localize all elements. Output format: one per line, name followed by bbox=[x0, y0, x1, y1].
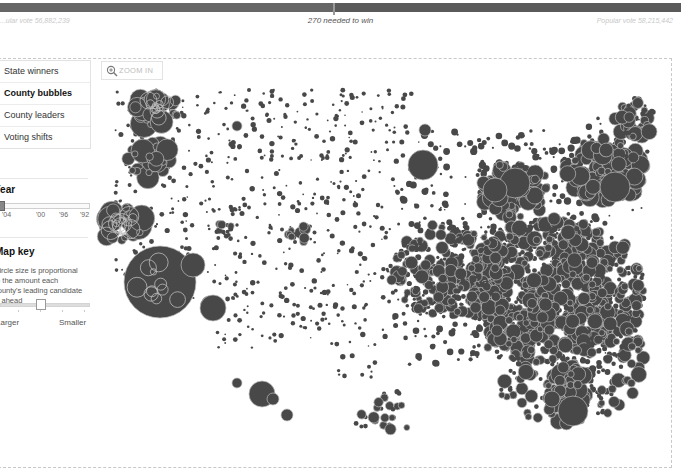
county-bubble[interactable] bbox=[227, 233, 231, 237]
county-bubble[interactable] bbox=[349, 341, 352, 344]
county-bubble[interactable] bbox=[560, 166, 576, 182]
county-bubble[interactable] bbox=[297, 111, 299, 113]
county-bubble[interactable] bbox=[520, 250, 525, 255]
county-bubble[interactable] bbox=[491, 264, 499, 272]
county-bubble[interactable] bbox=[414, 275, 418, 279]
county-bubble[interactable] bbox=[284, 262, 287, 265]
county-bubble[interactable] bbox=[596, 239, 604, 247]
county-bubble[interactable] bbox=[182, 197, 186, 201]
county-bubble[interactable] bbox=[516, 356, 521, 361]
county-bubble[interactable] bbox=[577, 331, 582, 336]
county-bubble[interactable] bbox=[635, 162, 639, 166]
county-bubble[interactable] bbox=[225, 275, 227, 277]
county-bubble[interactable] bbox=[484, 230, 488, 234]
view-county-leaders[interactable]: County leaders bbox=[0, 105, 90, 127]
county-bubble[interactable] bbox=[213, 102, 216, 105]
county-bubble[interactable] bbox=[496, 161, 503, 168]
county-bubble[interactable] bbox=[393, 323, 398, 328]
county-bubble[interactable] bbox=[625, 328, 633, 336]
county-bubble[interactable] bbox=[371, 151, 373, 153]
county-bubble[interactable] bbox=[433, 146, 438, 151]
county-bubble[interactable] bbox=[409, 221, 415, 227]
county-bubble[interactable] bbox=[207, 271, 209, 273]
county-bubble[interactable] bbox=[611, 262, 615, 266]
county-bubble[interactable] bbox=[397, 299, 399, 301]
county-bubble[interactable] bbox=[449, 223, 453, 227]
county-bubble[interactable] bbox=[407, 292, 410, 295]
county-bubble[interactable] bbox=[586, 306, 593, 313]
county-bubble[interactable] bbox=[506, 233, 514, 241]
county-bubble[interactable] bbox=[289, 157, 293, 161]
county-bubble[interactable] bbox=[400, 105, 405, 110]
county-bubble[interactable] bbox=[512, 371, 516, 375]
county-bubble[interactable] bbox=[413, 327, 420, 334]
county-bubble[interactable] bbox=[499, 392, 505, 398]
county-bubble[interactable] bbox=[397, 268, 400, 271]
county-bubble[interactable] bbox=[456, 289, 461, 294]
county-bubble[interactable] bbox=[235, 223, 238, 226]
county-bubble[interactable] bbox=[521, 229, 525, 233]
county-bubble[interactable] bbox=[340, 306, 344, 310]
county-bubble[interactable] bbox=[552, 240, 557, 245]
county-bubble[interactable] bbox=[246, 110, 248, 112]
county-bubble[interactable] bbox=[580, 220, 584, 224]
county-bubble[interactable] bbox=[413, 298, 416, 301]
county-bubble[interactable] bbox=[581, 284, 585, 288]
county-bubble[interactable] bbox=[115, 184, 118, 187]
county-bubble[interactable] bbox=[304, 287, 306, 289]
county-bubble[interactable] bbox=[315, 322, 319, 326]
county-bubble[interactable] bbox=[572, 256, 578, 262]
county-bubble[interactable] bbox=[633, 328, 638, 333]
county-bubble[interactable] bbox=[477, 168, 481, 172]
county-bubble[interactable] bbox=[600, 172, 630, 202]
county-bubble[interactable] bbox=[264, 155, 266, 157]
county-bubble[interactable] bbox=[283, 316, 285, 318]
county-bubble[interactable] bbox=[559, 143, 561, 145]
county-bubble[interactable] bbox=[206, 108, 209, 111]
county-bubble[interactable] bbox=[406, 304, 410, 308]
county-bubble[interactable] bbox=[326, 196, 330, 200]
county-bubble[interactable] bbox=[278, 169, 280, 171]
county-bubble[interactable] bbox=[358, 326, 362, 330]
county-bubble[interactable] bbox=[231, 178, 234, 181]
county-bubble[interactable] bbox=[146, 170, 152, 176]
county-bubble[interactable] bbox=[247, 305, 249, 307]
county-bubble[interactable] bbox=[417, 356, 422, 361]
county-bubble[interactable] bbox=[520, 202, 524, 206]
county-bubble[interactable] bbox=[312, 197, 314, 199]
county-bubble[interactable] bbox=[326, 304, 328, 306]
county-bubble[interactable] bbox=[458, 348, 464, 354]
county-bubble[interactable] bbox=[470, 334, 472, 336]
county-bubble[interactable] bbox=[214, 245, 219, 250]
county-bubble[interactable] bbox=[218, 208, 221, 211]
county-bubble[interactable] bbox=[210, 151, 214, 155]
county-bubble[interactable] bbox=[233, 283, 237, 287]
county-bubble[interactable] bbox=[330, 342, 333, 345]
county-bubble[interactable] bbox=[229, 205, 233, 209]
county-bubble[interactable] bbox=[270, 149, 274, 153]
county-bubble[interactable] bbox=[430, 301, 434, 305]
county-bubble[interactable] bbox=[226, 128, 229, 131]
county-bubble[interactable] bbox=[613, 326, 617, 330]
county-bubble[interactable] bbox=[305, 127, 307, 129]
county-bubble[interactable] bbox=[288, 266, 292, 270]
county-bubble[interactable] bbox=[422, 294, 425, 297]
county-bubble[interactable] bbox=[363, 318, 367, 322]
county-bubble[interactable] bbox=[290, 204, 295, 209]
county-bubble[interactable] bbox=[247, 88, 251, 92]
county-bubble[interactable] bbox=[428, 220, 438, 230]
county-bubble[interactable] bbox=[526, 273, 541, 288]
county-bubble[interactable] bbox=[376, 203, 380, 207]
county-bubble[interactable] bbox=[355, 270, 359, 274]
county-bubble[interactable] bbox=[335, 217, 340, 222]
county-bubble[interactable] bbox=[283, 251, 285, 253]
county-bubble[interactable] bbox=[423, 216, 427, 220]
county-bubble[interactable] bbox=[529, 129, 532, 132]
county-bubble[interactable] bbox=[273, 186, 276, 189]
county-bubble[interactable] bbox=[132, 151, 138, 157]
county-bubble[interactable] bbox=[292, 303, 296, 307]
county-bubble[interactable] bbox=[362, 256, 366, 260]
county-bubble[interactable] bbox=[608, 385, 616, 393]
county-bubble[interactable] bbox=[251, 122, 256, 127]
county-bubble[interactable] bbox=[279, 333, 284, 338]
